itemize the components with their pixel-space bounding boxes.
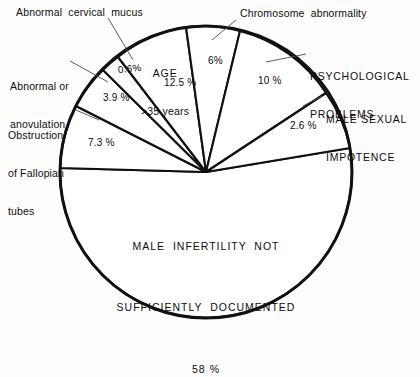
- label-psychological-problems-line1: PSYCHOLOGICAL: [310, 70, 410, 83]
- label-age-line2: >35 years: [141, 105, 189, 118]
- label-chromosome-abnormality: Chromosome abnormality: [240, 7, 367, 20]
- label-male-infertility-line2: SUFFICIENTLY DOCUMENTED: [106, 297, 306, 317]
- value-male-sexual-impotence: 2.6 %: [290, 120, 317, 132]
- value-chromosome-abnormality: 6%: [208, 55, 223, 67]
- label-abnormal-or-anovulation-line1: Abnormal or: [10, 80, 69, 93]
- label-male-infertility-line1: MALE INFERTILITY NOT: [106, 236, 306, 256]
- label-obstruction-line2: of Fallopian: [8, 167, 64, 180]
- value-obstruction-of-fallopian-tubes: 7.3 %: [88, 137, 115, 149]
- label-obstruction-line3: tubes: [8, 205, 64, 218]
- label-obstruction-line1: Obstruction: [8, 129, 64, 142]
- label-abnormal-cervical-mucus: Abnormal cervical mucus: [16, 6, 143, 19]
- label-male-sexual-impotence-line1: MALE SEXUAL: [326, 113, 407, 126]
- value-abnormal-cervical-mucus: 0.6%: [117, 62, 142, 77]
- value-age-over-35-years: 12.5 %: [164, 77, 196, 89]
- label-male-infertility-not-sufficiently-documented: MALE INFERTILITY NOT SUFFICIENTLY DOCUME…: [106, 195, 306, 377]
- label-male-sexual-impotence: MALE SEXUAL IMPOTENCE: [326, 87, 407, 177]
- value-male-infertility-not-sufficiently-documented: 58 %: [106, 359, 306, 377]
- label-male-sexual-impotence-line2: IMPOTENCE: [326, 151, 407, 164]
- value-psychological-problems: 10 %: [258, 75, 282, 87]
- label-obstruction-of-fallopian-tubes: Obstruction of Fallopian tubes: [8, 103, 64, 231]
- value-abnormal-or-anovulation: 3.9 %: [103, 92, 130, 104]
